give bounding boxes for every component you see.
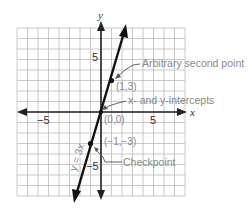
y-axis-up-arrow-icon: [97, 21, 105, 31]
leader-arrow-icon: [94, 147, 99, 152]
y-axis-down-arrow-icon: [97, 190, 105, 200]
line-up-arrow-icon: [119, 24, 128, 38]
point-neg1-neg3: [88, 141, 93, 146]
y-tick-label-neg5: −5: [86, 160, 99, 172]
coordinate-graph: y x −5 5 5 −5 y = 3x (1,3) (0,0) (−1,−3)…: [0, 0, 252, 213]
leader-intercepts: [104, 101, 126, 109]
y-axis-label: y: [97, 9, 103, 21]
leader-arbitrary-point: [117, 64, 140, 77]
annotation-intercepts: x- and y-intercepts: [128, 94, 214, 106]
point-1-3: [109, 78, 114, 83]
x-tick-label-neg5: −5: [37, 114, 50, 126]
annotation-checkpoint: Checkpoint: [123, 156, 176, 168]
coord-label-neg1-neg3: (−1,−3): [104, 136, 136, 147]
x-axis-left-arrow-icon: [17, 108, 27, 116]
coord-label-1-3: (1,3): [116, 81, 137, 92]
coord-label-origin: (0,0): [104, 114, 125, 125]
y-tick-label-5: 5: [92, 51, 98, 63]
point-origin: [99, 110, 103, 114]
annotation-arbitrary-second-point: Arbitrary second point: [142, 57, 244, 69]
leader-checkpoint: [96, 150, 122, 162]
x-axis-label: x: [189, 106, 195, 118]
x-tick-label-5: 5: [150, 114, 156, 126]
x-axis-right-arrow-icon: [177, 108, 187, 116]
